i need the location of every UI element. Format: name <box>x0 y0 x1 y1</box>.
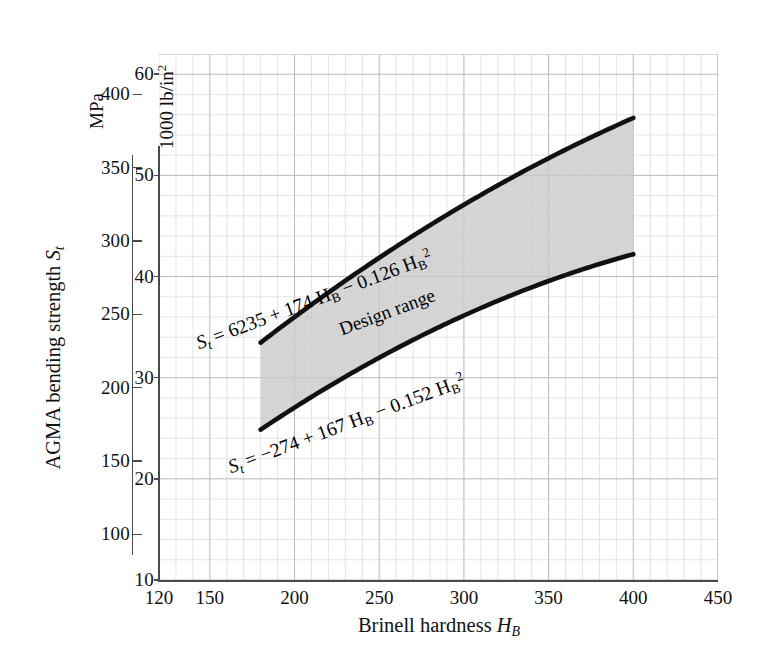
ksi-tick-20 <box>154 478 159 480</box>
x-tick-label-200: 200 <box>280 588 309 607</box>
x-axis-title-text: Brinell hardness <box>358 614 497 636</box>
mpa-tick-label-300: 300 <box>78 231 130 250</box>
ksi-unit-exponent: 2 <box>154 65 169 71</box>
ksi-tick-50 <box>154 175 159 177</box>
y-axis-symbol: S <box>42 250 64 260</box>
x-axis-symbol-sub: B <box>512 624 521 639</box>
mpa-tick-label-350: 350 <box>78 158 130 177</box>
y-axis-title: AGMA bending strength St <box>42 208 68 508</box>
mpa-unit-caption: MPa <box>86 66 108 156</box>
y-axis-symbol-sub: t <box>52 246 67 250</box>
mpa-tick-label-250: 250 <box>78 304 130 323</box>
mpa-tick-label-200: 200 <box>78 378 130 397</box>
ksi-tick-30 <box>154 377 159 379</box>
ksi-unit-caption: 1000 lb/in2 <box>154 47 178 167</box>
mpa-tick-label-100: 100 <box>78 524 130 543</box>
ksi-tick-10 <box>154 579 159 581</box>
mpa-tick-label-150: 150 <box>78 451 130 470</box>
ksi-tick-40 <box>154 276 159 278</box>
x-axis-symbol: H <box>497 614 512 636</box>
x-axis-spine <box>159 580 718 582</box>
x-tick-label-300: 300 <box>450 588 479 607</box>
x-tick-label-250: 250 <box>365 588 394 607</box>
ksi-axis-spine <box>158 146 160 582</box>
x-tick-label-350: 350 <box>534 588 563 607</box>
x-tick-label-150: 150 <box>196 588 225 607</box>
agma-bending-strength-chart: 102030405060 100150200250300350400 12015… <box>0 0 772 658</box>
y-axis-title-text: AGMA bending strength <box>42 261 64 470</box>
ksi-unit-text: 1000 lb/in <box>156 71 177 149</box>
x-axis-title: Brinell hardness HB <box>239 614 639 640</box>
mpa-unit-text: MPa <box>86 93 107 129</box>
x-tick-label-400: 400 <box>619 588 648 607</box>
x-tick-label-450: 450 <box>704 588 733 607</box>
x-tick-label-120: 120 <box>145 588 174 607</box>
